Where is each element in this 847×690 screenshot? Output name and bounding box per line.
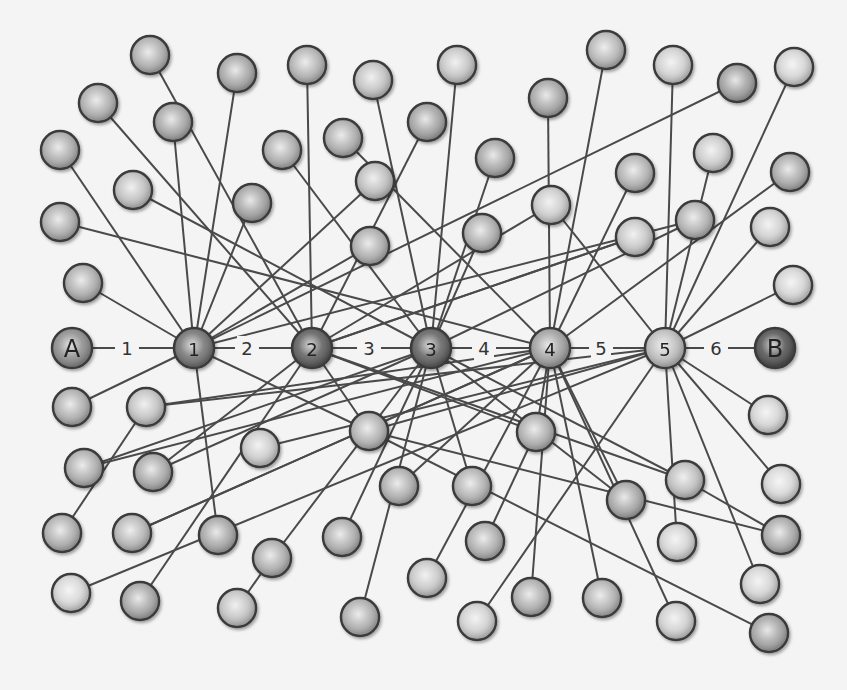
leaf-node	[154, 103, 192, 141]
leaf-node	[131, 36, 169, 74]
leaf-node	[114, 171, 152, 209]
chain-node-label: A	[64, 335, 81, 363]
leaf-node	[771, 153, 809, 191]
leaf-node	[408, 103, 446, 141]
chain-node-label: 3	[425, 339, 436, 360]
leaf-node	[666, 461, 704, 499]
leaf-node	[762, 465, 800, 503]
leaf-node	[408, 559, 446, 597]
leaf-node	[532, 186, 570, 224]
hop-label: 6	[710, 338, 721, 359]
edge	[150, 55, 312, 348]
leaf-node	[324, 119, 362, 157]
hop-label: 2	[241, 338, 252, 359]
edge	[369, 348, 665, 431]
leaf-node	[354, 61, 392, 99]
leaf-node	[749, 396, 787, 434]
edge	[369, 431, 769, 633]
leaf-node	[241, 429, 279, 467]
leaf-node	[750, 614, 788, 652]
leaf-node	[41, 131, 79, 169]
chain-node-label: B	[767, 335, 783, 363]
edge	[665, 65, 673, 348]
leaf-node	[233, 184, 271, 222]
hop-label: 4	[478, 338, 489, 359]
chain-node-label: 4	[544, 339, 555, 360]
leaf-node	[351, 227, 389, 265]
edge	[431, 348, 685, 480]
leaf-node	[134, 453, 172, 491]
leaf-node	[607, 481, 645, 519]
leaf-node	[587, 31, 625, 69]
leaf-node	[694, 134, 732, 172]
leaf-node	[43, 514, 81, 552]
chain-node-label: 2	[306, 339, 317, 360]
leaf-node	[79, 84, 117, 122]
leaf-node	[466, 522, 504, 560]
network-graph: 123456 A12345B	[0, 0, 847, 690]
edge	[665, 153, 713, 348]
leaf-node	[774, 266, 812, 304]
edge	[173, 122, 194, 348]
leaf-node	[762, 516, 800, 554]
leaf-node	[263, 131, 301, 169]
leaf-node	[121, 582, 159, 620]
chain-node-label: 1	[188, 339, 199, 360]
leaf-node	[657, 602, 695, 640]
leaf-node	[463, 214, 501, 252]
chain-node-4: 4	[530, 328, 570, 368]
leaf-node	[253, 539, 291, 577]
leaf-node	[52, 574, 90, 612]
leaf-node	[218, 589, 256, 627]
leaf-node	[616, 218, 654, 256]
leaf-node	[517, 413, 555, 451]
leaf-node	[65, 449, 103, 487]
edge	[194, 246, 370, 348]
chain-node-label: 5	[659, 339, 670, 360]
leaf-node	[350, 412, 388, 450]
leaf-node	[323, 518, 361, 556]
chain-node-b: B	[755, 328, 795, 368]
edge	[665, 348, 677, 542]
leaf-node	[64, 264, 102, 302]
edge	[194, 203, 252, 348]
leaf-node	[438, 46, 476, 84]
leaf-node	[218, 54, 256, 92]
leaf-node	[751, 208, 789, 246]
edge	[194, 83, 737, 348]
leaf-node	[616, 154, 654, 192]
leaf-node	[199, 516, 237, 554]
hop-label: 5	[595, 338, 606, 359]
leaf-node	[741, 565, 779, 603]
leaf-node	[458, 602, 496, 640]
edge	[194, 348, 218, 535]
leaf-node	[341, 598, 379, 636]
leaf-node	[775, 48, 813, 86]
leaf-node	[453, 467, 491, 505]
edge	[194, 181, 375, 348]
edge	[194, 73, 237, 348]
leaf-node	[380, 467, 418, 505]
leaf-node	[127, 388, 165, 426]
hop-label: 1	[121, 338, 132, 359]
chain-node-a: A	[52, 328, 92, 368]
chain-node-1: 1	[174, 328, 214, 368]
leaf-node	[654, 46, 692, 84]
leaf-node	[718, 64, 756, 102]
leaf-node	[356, 162, 394, 200]
leaf-node	[529, 79, 567, 117]
leaf-node	[53, 388, 91, 426]
network-diagram: 123456 A12345B	[0, 0, 847, 690]
leaf-node	[658, 523, 696, 561]
leaf-node	[512, 578, 550, 616]
chain-node-3: 3	[411, 328, 451, 368]
chain-node-2: 2	[292, 328, 332, 368]
leaf-node	[41, 203, 79, 241]
leaf-node	[113, 514, 151, 552]
leaf-node	[676, 201, 714, 239]
hop-label: 3	[363, 338, 374, 359]
edge	[307, 65, 312, 348]
chain-node-5: 5	[645, 328, 685, 368]
leaf-node	[476, 139, 514, 177]
leaf-node	[583, 579, 621, 617]
